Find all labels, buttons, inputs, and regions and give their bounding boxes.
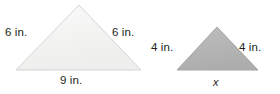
large-triangle-left-side-label: 6 in. xyxy=(5,27,27,39)
small-triangle-base-label: x xyxy=(213,77,219,88)
similar-triangles-figure: 6 in. 6 in. 9 in. 4 in. 4 in. x xyxy=(0,0,280,94)
large-triangle-base-label: 9 in. xyxy=(60,75,82,87)
small-triangle-right-side-label: 4 in. xyxy=(239,42,261,54)
triangles-drawing xyxy=(0,0,280,94)
small-triangle-left-side-label: 4 in. xyxy=(151,42,173,54)
large-triangle-right-side-label: 6 in. xyxy=(112,27,134,39)
